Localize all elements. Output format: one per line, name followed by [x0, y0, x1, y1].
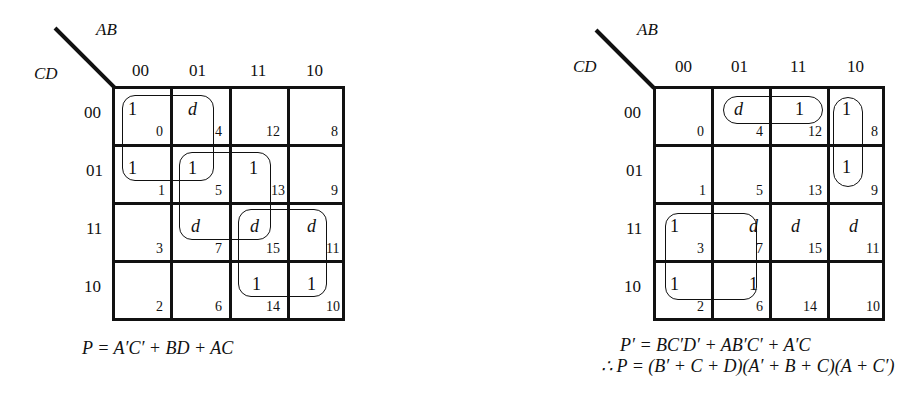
- cell-index: 3: [156, 241, 163, 257]
- cell-index: 7: [756, 241, 763, 257]
- col-label: 10: [306, 61, 323, 81]
- row-label: 01: [626, 161, 643, 181]
- cell-index: 11: [866, 241, 879, 257]
- equation-pos: ∴ P = (B′ + C + D)(A′ + B + C)(A + C′): [601, 355, 895, 377]
- cell-value: d: [791, 216, 800, 237]
- kmap-grid: 1 0 d 4 12 8 1 1 1 5 1 13 9 3 d 7 d 15 d…: [112, 86, 345, 321]
- row-label: 11: [86, 219, 102, 239]
- cell-index: 11: [326, 241, 339, 257]
- cell-index: 4: [756, 124, 763, 140]
- col-variable-label: AB: [96, 20, 117, 40]
- cell-index: 2: [156, 299, 163, 315]
- group-loop-ac: [238, 209, 327, 297]
- cell-index: 2: [697, 299, 704, 315]
- cell-index: 12: [808, 124, 822, 140]
- cell-index: 9: [871, 183, 878, 199]
- cell-index: 6: [756, 299, 763, 315]
- col-label: 11: [250, 61, 266, 81]
- kmap-grid: 0 d 4 1 12 1 8 1 5 13 1 9 1 3 d 7 d 15 d…: [653, 86, 885, 321]
- cell-index: 1: [158, 183, 165, 199]
- cell-index: 14: [803, 299, 817, 315]
- cell-index: 0: [697, 124, 704, 140]
- row-variable-label: CD: [573, 57, 597, 77]
- row-label: 01: [86, 161, 103, 181]
- cell-index: 13: [808, 183, 822, 199]
- cell-index: 14: [266, 299, 280, 315]
- cell-index: 5: [756, 183, 763, 199]
- group-loop-a-prime-c: [665, 213, 757, 300]
- cell-value: d: [849, 216, 858, 237]
- col-label: 10: [847, 57, 864, 77]
- cell-index: 12: [266, 124, 280, 140]
- cell-index: 4: [215, 124, 222, 140]
- cell-index: 10: [866, 299, 880, 315]
- col-variable-label: AB: [637, 20, 658, 40]
- row-label: 00: [624, 103, 641, 123]
- cell-index: 9: [331, 183, 338, 199]
- right-karnaugh-map: AB CD 00 01 11 10 00 01 11 10 0 d 4 1 12…: [541, 0, 919, 398]
- cell-index: 8: [871, 124, 878, 140]
- cell-index: 1: [699, 183, 706, 199]
- cell-index: 6: [215, 299, 222, 315]
- cell-index: 15: [808, 241, 822, 257]
- cell-index: 13: [271, 183, 285, 199]
- col-label: 00: [132, 61, 149, 81]
- col-label: 01: [731, 57, 748, 77]
- cell-index: 8: [331, 124, 338, 140]
- col-label: 01: [189, 61, 206, 81]
- row-variable-label: CD: [34, 64, 58, 84]
- group-loop-ab-prime-c-prime: [833, 97, 863, 187]
- row-label: 10: [624, 277, 641, 297]
- group-loop-bc-prime-d-prime: [723, 96, 823, 124]
- cell-index: 7: [215, 241, 222, 257]
- left-karnaugh-map: AB CD 00 01 11 10 00 01 11 10 1 0 d 4 12…: [0, 0, 440, 398]
- equation-sop: P = A′C′ + BD + AC: [82, 338, 233, 359]
- cell-index: 10: [326, 299, 340, 315]
- row-label: 00: [84, 103, 101, 123]
- row-label: 10: [84, 277, 101, 297]
- row-label: 11: [626, 219, 642, 239]
- col-label: 11: [790, 57, 806, 77]
- col-label: 00: [675, 57, 692, 77]
- equation-complement: P′ = BC′D′ + AB′C′ + A′C: [620, 335, 810, 356]
